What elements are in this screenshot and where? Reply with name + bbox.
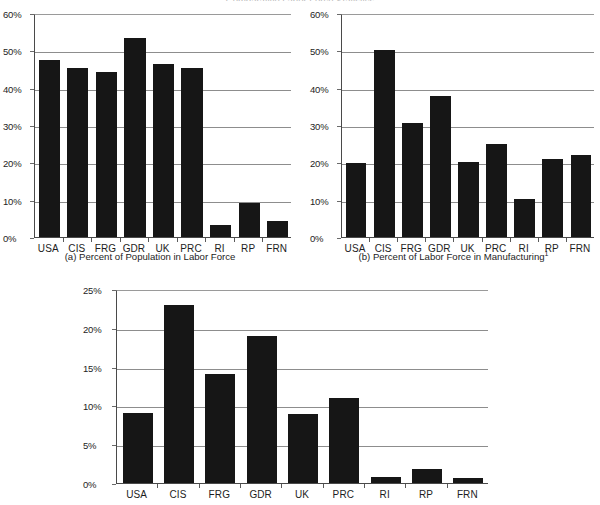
x-axis-label-prc: PRC — [323, 489, 364, 500]
x-tick-mark — [369, 238, 370, 242]
y-tick-mark — [337, 14, 341, 15]
x-axis-c: USACISFRGGDRUKPRCRIRPFRN — [80, 283, 500, 505]
x-axis-label-cis: CIS — [157, 489, 198, 500]
x-tick-mark — [120, 238, 121, 242]
x-tick-mark — [91, 238, 92, 242]
x-tick-mark — [425, 238, 426, 242]
y-tick-mark — [30, 201, 34, 202]
x-tick-mark — [453, 238, 454, 242]
y-tick-mark — [30, 163, 34, 164]
y-tick-mark — [337, 163, 341, 164]
chart-panel-a: 0%10%20%30%40%50%60% USACISFRGGDRUKPRCRI… — [0, 0, 300, 275]
y-tick-mark — [30, 14, 34, 15]
x-tick-mark — [566, 238, 567, 242]
x-tick-mark — [405, 484, 406, 488]
x-tick-mark — [240, 484, 241, 488]
x-axis-b: USACISFRGGDRUKPRCRIRPFRN — [307, 0, 600, 275]
x-tick-mark — [205, 238, 206, 242]
x-axis-label-usa: USA — [116, 489, 157, 500]
x-tick-mark — [199, 484, 200, 488]
x-tick-mark — [63, 238, 64, 242]
y-tick-mark — [337, 89, 341, 90]
y-tick-mark — [337, 126, 341, 127]
y-tick-mark — [30, 89, 34, 90]
y-tick-mark — [112, 290, 116, 291]
chart-caption-a: (a) Percent of Population in Labor Force — [0, 250, 300, 262]
x-tick-mark — [397, 238, 398, 242]
x-tick-mark — [281, 484, 282, 488]
y-tick-mark — [112, 329, 116, 330]
chart-caption-b: (b) Percent of Labor Force in Manufactur… — [307, 250, 600, 262]
y-tick-mark — [112, 368, 116, 369]
x-axis-a: USACISFRGGDRUKPRCRIRPFRN — [0, 0, 300, 275]
chart-caption-a-text: (a) Percent of Population in Labor Force — [65, 251, 236, 262]
x-axis-label-gdr: GDR — [240, 489, 281, 500]
x-axis-label-frg: FRG — [199, 489, 240, 500]
chart-panel-c: 0%5%10%15%20%25% USACISFRGGDRUKPRCRIRPFR… — [80, 283, 500, 505]
x-axis-label-rp: RP — [405, 489, 446, 500]
y-tick-mark — [112, 484, 116, 485]
y-tick-mark — [30, 126, 34, 127]
x-tick-mark — [177, 238, 178, 242]
x-tick-mark — [538, 238, 539, 242]
x-tick-mark — [262, 238, 263, 242]
y-tick-mark — [337, 238, 341, 239]
x-tick-mark — [157, 484, 158, 488]
x-tick-mark — [482, 238, 483, 242]
x-tick-mark — [364, 484, 365, 488]
y-tick-mark — [337, 51, 341, 52]
y-tick-mark — [112, 445, 116, 446]
x-axis-label-frn: FRN — [447, 489, 488, 500]
x-tick-mark — [323, 484, 324, 488]
x-axis-label-uk: UK — [281, 489, 322, 500]
chart-panel-b: 0%10%20%30%40%50%60% USACISFRGGDRUKPRCRI… — [307, 0, 600, 275]
chart-caption-b-footnote: 1 — [545, 250, 549, 257]
chart-caption-b-text: (b) Percent of Labor Force in Manufactur… — [358, 251, 544, 262]
x-tick-mark — [510, 238, 511, 242]
x-tick-mark — [148, 238, 149, 242]
x-axis-label-ri: RI — [364, 489, 405, 500]
y-tick-mark — [112, 406, 116, 407]
x-tick-mark — [447, 484, 448, 488]
y-tick-mark — [30, 51, 34, 52]
y-tick-mark — [30, 238, 34, 239]
y-tick-mark — [337, 201, 341, 202]
x-tick-mark — [234, 238, 235, 242]
